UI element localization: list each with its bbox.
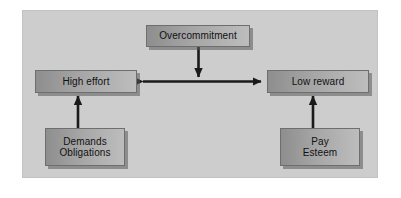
node-overcommitment: Overcommitment (146, 25, 250, 47)
node-pay-esteem-label-line-2: Esteem (303, 147, 338, 158)
node-demands-obligations-label-line-2: Obligations (59, 147, 110, 158)
node-overcommitment-label-line-1: Overcommitment (159, 30, 237, 41)
node-demands-obligations: Demands Obligations (45, 128, 125, 166)
node-low-reward: Low reward (267, 70, 369, 93)
node-demands-obligations-label-line-1: Demands (59, 136, 110, 147)
node-high-effort-label-line-1: High effort (62, 76, 109, 87)
node-low-reward-label-line-1: Low reward (292, 76, 345, 87)
node-high-effort: High effort (35, 70, 137, 93)
node-pay-esteem-label-line-1: Pay (303, 136, 338, 147)
diagram-canvas: Overcommitment High effort Low reward De… (0, 0, 401, 198)
node-pay-esteem: Pay Esteem (280, 128, 360, 166)
